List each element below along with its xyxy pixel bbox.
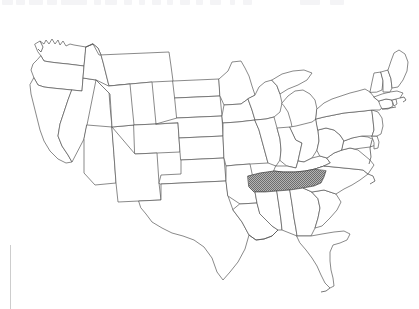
map-canvas [0,0,419,309]
coast-detail-florida-keys [321,288,330,292]
state-kansas[interactable] [179,136,224,160]
us-states-map[interactable] [0,0,419,309]
state-arizona[interactable] [84,125,116,185]
state-southdakota[interactable] [175,96,222,118]
state-northdakota[interactable] [173,79,220,98]
state-utah[interactable] [96,80,134,127]
state-colorado[interactable] [134,123,180,154]
state-vermont[interactable] [370,72,383,92]
state-florida[interactable] [297,231,350,288]
states-layer [30,39,408,292]
state-newjersey[interactable] [372,110,383,136]
coast-detail-cape-cod [400,97,406,102]
state-oklahoma[interactable] [159,158,226,184]
coast-detail-outer-banks [368,174,375,184]
state-massachusetts[interactable] [374,91,403,101]
